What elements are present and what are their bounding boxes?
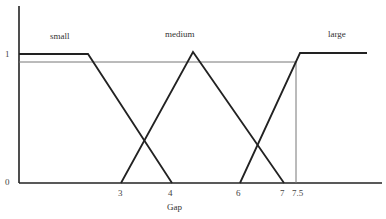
y-tick-0: 0 bbox=[5, 177, 10, 187]
x-axis-label: Gap bbox=[167, 202, 182, 212]
x-tick-3: 3 bbox=[118, 188, 123, 198]
x-tick-7-5: 7.5 bbox=[292, 188, 304, 198]
reference-line bbox=[19, 62, 296, 183]
label-small: small bbox=[50, 31, 70, 41]
series-small bbox=[19, 54, 172, 183]
label-large: large bbox=[328, 29, 346, 39]
series-medium bbox=[121, 52, 284, 183]
x-tick-4: 4 bbox=[168, 188, 173, 198]
y-tick-1: 1 bbox=[5, 49, 10, 59]
series-large bbox=[240, 53, 367, 183]
label-medium: medium bbox=[165, 29, 195, 39]
x-tick-7: 7 bbox=[280, 188, 285, 198]
fuzzy-membership-chart: small medium large 1 0 3 4 6 7 7.5 Gap bbox=[0, 0, 386, 219]
x-tick-6: 6 bbox=[236, 188, 241, 198]
